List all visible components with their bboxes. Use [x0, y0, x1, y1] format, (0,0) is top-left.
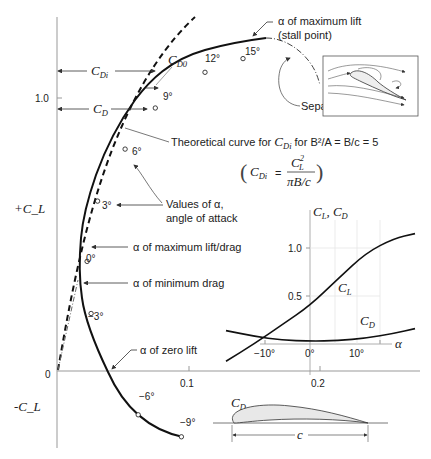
- svg-text:=: =: [275, 167, 281, 179]
- inset-cl-curve: [226, 234, 415, 362]
- inset-x-tick-10: 10°: [349, 348, 364, 359]
- svg-text:πB/c: πB/c: [287, 174, 311, 189]
- min-drag-label: α of minimum drag: [133, 277, 224, 289]
- values-alpha-leader: [134, 165, 162, 203]
- alpha-label-m9: −9°: [180, 417, 195, 428]
- zero-lift-label: α of zero lift: [140, 344, 197, 356]
- values-alpha-label-1: Values of α,: [166, 198, 224, 210]
- values-alpha-label-2: angle of attack: [166, 212, 238, 224]
- flow-separation-illustration: [323, 56, 418, 116]
- alpha-label-m6: −6°: [139, 391, 154, 402]
- alpha-label-12: 12°: [205, 53, 220, 64]
- airfoil-chord-illustration: c: [213, 405, 388, 442]
- polar-point-5: [123, 147, 127, 151]
- inset-y-label: CL, CD: [313, 204, 349, 221]
- origin-label: 0: [45, 369, 51, 380]
- cd0-offset-line: [58, 280, 78, 370]
- alpha-label-6: 6°: [132, 146, 142, 157]
- y-tick-label-1: 1.0: [35, 93, 49, 104]
- inset-cd-label: CD: [360, 313, 376, 330]
- inset-x-tick-m10: −10°: [254, 348, 275, 359]
- theory-label: Theoretical curve for CDi for B²/A = B/c…: [171, 134, 378, 151]
- drag-polar-chart: 1.0 0 0.1 0.2 CD +C_L -C_L 15° 12° 9° 6°…: [0, 0, 431, 459]
- svg-text:(: (: [240, 159, 247, 184]
- theory-leader: [125, 128, 169, 142]
- polar-point-7: [203, 70, 207, 74]
- chord-label: c: [297, 427, 303, 442]
- drag-polar-curve: [80, 38, 266, 437]
- inset-y-tick-05: 0.5: [288, 291, 302, 302]
- x-tick-label-01: 0.1: [180, 378, 194, 389]
- polar-point-1: [136, 413, 140, 417]
- polar-point-0: [179, 435, 183, 439]
- x-tick-label-02: 0.2: [311, 378, 325, 389]
- svg-text:): ): [316, 159, 323, 184]
- polar-point-8: [241, 56, 245, 60]
- theoretical-cdi-curve: [58, 17, 195, 370]
- separation-leader: [279, 58, 300, 106]
- svg-text:CDi: CDi: [250, 164, 268, 181]
- cd0-label: CD0: [168, 52, 188, 69]
- inset-x-label: α: [395, 336, 403, 351]
- cdi-formula: ( CDi = C2L πB/c ): [240, 153, 323, 189]
- polar-point-6: [153, 106, 157, 110]
- inset-y-tick-1: 1.0: [288, 243, 302, 254]
- alpha-label-9: 9°: [163, 91, 173, 102]
- inset-cd-curve: [226, 329, 415, 341]
- inset-cl-cd-chart: 1.0 0.5 −10° 0° 10° α CL, CD CL CD: [226, 204, 415, 375]
- alpha-label-15: 15°: [245, 46, 260, 57]
- max-lift-leader: [253, 22, 273, 36]
- stall-point-label: (stall point): [278, 29, 332, 41]
- alpha-label-m3: −3°: [88, 311, 103, 322]
- max-lift-label: α of maximum lift: [278, 15, 361, 27]
- polar-point-4: [95, 199, 99, 203]
- zero-lift-leader: [112, 350, 137, 369]
- inset-x-tick-0: 0°: [305, 348, 315, 359]
- y-axis-label-positive: +C_L: [14, 201, 45, 216]
- alpha-label-3: 3°: [102, 200, 112, 211]
- svg-text:C2L: C2L: [291, 153, 305, 172]
- alpha-label-0: 0°: [86, 253, 96, 264]
- inset-cl-label: CL: [338, 280, 352, 297]
- max-lift-drag-label: α of maximum lift/drag: [133, 241, 241, 253]
- stall-curve: [266, 38, 320, 85]
- y-axis-label-negative: -C_L: [14, 399, 41, 414]
